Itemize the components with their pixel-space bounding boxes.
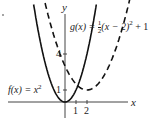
x-tick-label-1: 1: [73, 106, 78, 116]
graph: [0, 0, 161, 125]
g-label: g(x) = 12(x − 2)2 + 1: [70, 20, 148, 35]
x-axis-label: x: [131, 97, 136, 108]
x-tick-label-2: 2: [84, 106, 89, 116]
g-curve: [39, 0, 138, 90]
y-tick-label-1: 1: [56, 85, 61, 95]
y-axis-label: y: [62, 2, 67, 13]
y-tick-label-4: 4: [56, 49, 61, 59]
figure-marker: [2, 14, 4, 16]
f-label: f(x) = x2: [8, 84, 42, 95]
